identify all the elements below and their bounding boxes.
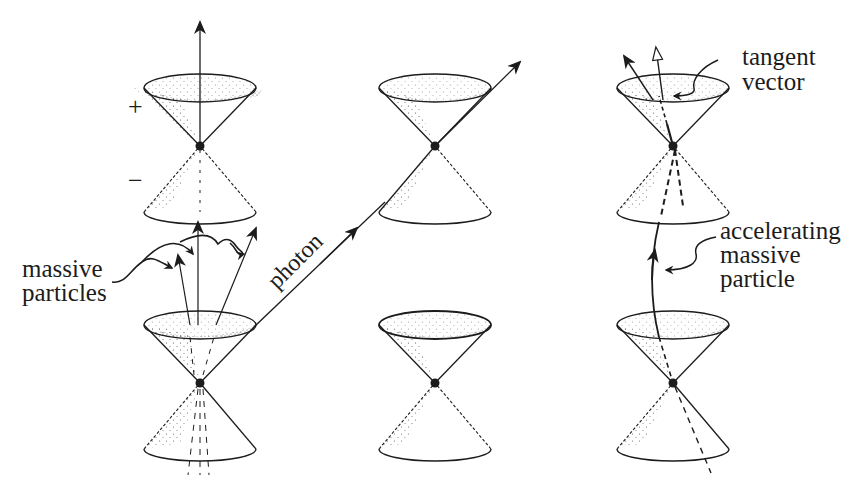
event-point: [669, 142, 678, 151]
light-cone-right-bottom: [617, 311, 729, 473]
event-point: [431, 379, 440, 388]
event-point: [669, 379, 678, 388]
tangent-vector-label-line1: tangent: [742, 44, 816, 70]
light-cone-diagram: photon + − massive particles tangent vec…: [0, 0, 854, 483]
massive-particle-arrow-3: [216, 228, 256, 325]
light-cone-middle-top: [379, 74, 491, 224]
light-cone-right-top: [617, 74, 729, 224]
event-point: [431, 142, 440, 151]
massive-particles-label-line2: particles: [22, 280, 107, 306]
tangent-vector-label-line2: vector: [742, 69, 804, 95]
light-cone-left-bottom: [144, 311, 256, 475]
pointer-curve-1: [112, 259, 172, 283]
light-cone-left-top: [134, 74, 262, 224]
accelerating-pointer-curve: [666, 237, 716, 270]
accelerating-label-line3: particle: [720, 266, 795, 292]
light-cone-middle-bottom: [379, 311, 491, 461]
past-sign-label: −: [128, 168, 143, 194]
photon-label: photon: [262, 228, 328, 294]
event-point: [196, 379, 205, 388]
future-sign-label: +: [128, 94, 143, 120]
